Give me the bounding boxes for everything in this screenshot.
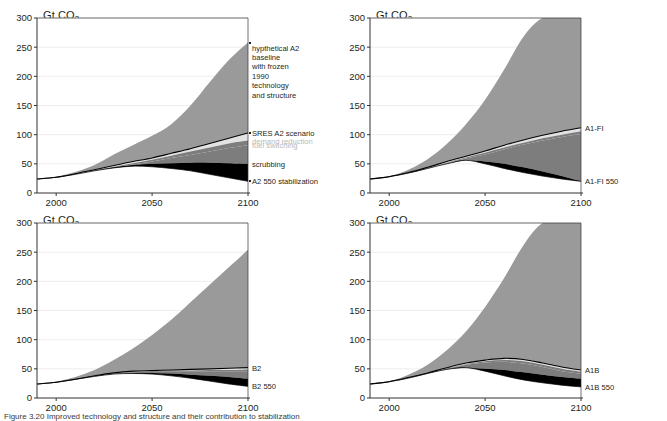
svg-text:50: 50 bbox=[21, 363, 32, 374]
panel-a2: Gt CO2 050100150200250300200020502100 hy… bbox=[0, 0, 333, 210]
annotation-b2-0: B2 bbox=[252, 364, 261, 373]
annotation-a1fi-1: A1-FI 550 bbox=[585, 177, 618, 186]
svg-text:150: 150 bbox=[349, 100, 365, 111]
svg-text:0: 0 bbox=[27, 187, 32, 198]
svg-text:150: 150 bbox=[349, 305, 365, 316]
svg-text:0: 0 bbox=[360, 392, 365, 403]
svg-text:200: 200 bbox=[16, 71, 32, 82]
svg-text:50: 50 bbox=[21, 158, 32, 169]
svg-text:50: 50 bbox=[354, 363, 365, 374]
svg-text:100: 100 bbox=[16, 334, 32, 345]
annotation-a2-5: A2 550 stabilization bbox=[252, 177, 318, 186]
svg-text:250: 250 bbox=[349, 42, 365, 53]
annotation-marker bbox=[249, 180, 251, 182]
annotation-a2-0: hypthetical A2baselinewith frozen1990tec… bbox=[252, 44, 299, 100]
annotation-marker bbox=[249, 42, 251, 44]
svg-text:100: 100 bbox=[349, 129, 365, 140]
svg-text:300: 300 bbox=[16, 217, 32, 228]
annotation-b2-1: B2 550 bbox=[252, 382, 276, 391]
annotation-a1fi-0: A1-FI bbox=[585, 124, 604, 133]
panel-a1b: Gt CO2 050100150200250300200020502100 A1… bbox=[333, 205, 666, 415]
annotation-a2-3: fuel switching bbox=[252, 141, 298, 150]
plot-area-a1b: 050100150200250300200020502100 bbox=[333, 205, 666, 415]
svg-text:250: 250 bbox=[16, 42, 32, 53]
svg-text:0: 0 bbox=[27, 392, 32, 403]
svg-text:250: 250 bbox=[349, 247, 365, 258]
annotation-marker bbox=[249, 132, 251, 134]
svg-text:300: 300 bbox=[16, 12, 32, 23]
annotation-a2-4: scrubbing bbox=[252, 160, 285, 169]
svg-text:50: 50 bbox=[354, 158, 365, 169]
svg-text:200: 200 bbox=[16, 276, 32, 287]
svg-text:100: 100 bbox=[16, 129, 32, 140]
annotation-a1b-0: A1B bbox=[585, 366, 599, 375]
svg-text:200: 200 bbox=[349, 276, 365, 287]
svg-text:200: 200 bbox=[349, 71, 365, 82]
svg-text:150: 150 bbox=[16, 305, 32, 316]
panel-a1fi: Gt CO2 050100150200250300200020502100 A1… bbox=[333, 0, 666, 210]
svg-text:300: 300 bbox=[349, 12, 365, 23]
annotation-a1b-1: A1B 550 bbox=[585, 383, 614, 392]
svg-text:150: 150 bbox=[16, 100, 32, 111]
svg-text:300: 300 bbox=[349, 217, 365, 228]
svg-text:0: 0 bbox=[360, 187, 365, 198]
svg-text:100: 100 bbox=[349, 334, 365, 345]
plot-area-b2: 050100150200250300200020502100 bbox=[0, 205, 333, 415]
svg-text:250: 250 bbox=[16, 247, 32, 258]
figure-caption: Figure 3.20 Improved technology and stru… bbox=[4, 412, 664, 421]
panel-b2: Gt CO2 050100150200250300200020502100 B2… bbox=[0, 205, 333, 415]
